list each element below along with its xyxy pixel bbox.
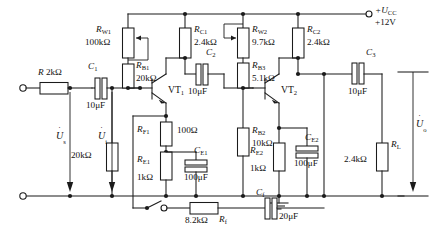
resistor-RE2-body	[274, 143, 286, 171]
supply-label: +UCC	[375, 6, 397, 16]
label-ui: ˙Ui	[98, 130, 107, 143]
phasor-us-arrowhead	[67, 182, 73, 192]
label-uo: ˙Uo	[416, 118, 427, 131]
label-RE2-val: 1kΩ	[250, 164, 266, 174]
schematic-svg	[0, 0, 438, 240]
label-RB1-ref: RB1	[136, 61, 149, 71]
node-gnd-fb	[322, 194, 326, 198]
resistor-RB3-body	[238, 63, 250, 88]
capacitor-Cf-plate-left	[265, 198, 270, 219]
resistor-RL-body	[377, 143, 389, 171]
capacitor-C2-plate-left	[196, 64, 201, 85]
label-RB3-val: 5.1kΩ	[252, 74, 275, 84]
phasor-uo-arrowhead	[410, 182, 416, 192]
capacitor-C3-plate-left	[352, 63, 357, 84]
label-Rf-ref: Rf	[219, 215, 227, 225]
label-C1-val: 10μF	[86, 101, 105, 111]
label-CE1-ref: CE1	[194, 146, 207, 156]
input-terminal-bottom[interactable]	[20, 193, 26, 199]
node-rc1-top	[183, 12, 187, 16]
label-RL-ref: RL	[391, 140, 401, 150]
label-RW2-val: 9.7kΩ	[252, 38, 275, 48]
label-RW1-val: 100kΩ	[85, 38, 110, 48]
resistor-R-body	[40, 83, 68, 95]
label-RB3-ref: RB3	[252, 61, 265, 71]
node-output-tap	[296, 72, 300, 76]
label-CE2-val: 100μF	[294, 159, 318, 169]
label-RF1-ref: RF1	[137, 125, 150, 135]
node-gnd-rl	[380, 194, 384, 198]
resistor-RE1-body	[161, 152, 173, 180]
label-R: R 2kΩ	[38, 68, 62, 78]
node-ui-tap	[68, 86, 72, 90]
label-20k-val: 20kΩ	[71, 151, 92, 161]
label-Cf-val: 20μF	[279, 212, 298, 222]
label-C2-val: 10μF	[188, 87, 207, 97]
resistor-RB2-body	[238, 128, 250, 156]
node-gnd-20k	[110, 194, 114, 198]
resistor-RW1-body	[123, 28, 135, 58]
capacitor-C3-plate-right	[359, 63, 364, 84]
label-VT2: VT2	[281, 85, 297, 95]
label-RW1-ref: RW1	[96, 25, 111, 35]
label-Cf-ref: Cf	[256, 188, 264, 198]
capacitor-C2-plate-right	[203, 64, 208, 85]
supply-terminal[interactable]	[366, 11, 372, 17]
label-VT1: VT1	[168, 85, 184, 95]
resistor-RW2-body	[238, 28, 250, 58]
collector-load-stage1	[166, 12, 196, 74]
input-network	[20, 78, 142, 196]
label-CE1-val: 100μF	[184, 173, 208, 183]
phasor-ui-arrowhead	[109, 182, 115, 192]
label-Rf-val: 8.2kΩ	[185, 216, 208, 226]
resistor-Rf-body	[190, 203, 218, 215]
label-RL-val: 2.4kΩ	[344, 155, 367, 165]
capacitor-CE1-plate-top	[185, 160, 207, 165]
label-RC2-val: 2.4kΩ	[307, 38, 330, 48]
label-CE2-ref: CE2	[305, 133, 318, 143]
input-terminal-top[interactable]	[20, 85, 26, 91]
node-gnd-ce2	[305, 194, 309, 198]
label-RE1-ref: RE1	[137, 155, 150, 165]
capacitor-C1-plate-left	[95, 78, 100, 99]
label-RE2-ref: RE2	[250, 146, 263, 156]
node-rw2-top	[241, 12, 245, 16]
node-gnd-ui	[68, 194, 72, 198]
label-C2-ref: C2	[206, 48, 215, 58]
resistor-RB1-body	[123, 64, 135, 88]
label-us: ˙Us	[56, 130, 66, 143]
switch-contact[interactable]	[161, 205, 167, 211]
capacitor-Cf-plate-right	[272, 198, 277, 219]
bias-network-stage2	[224, 12, 253, 128]
label-C1-ref: C1	[88, 62, 97, 72]
node-rb1-bottom	[126, 86, 130, 90]
label-RC2-ref: RC2	[307, 25, 320, 35]
node-gnd-ce1	[194, 194, 198, 198]
label-RB2-ref: RB2	[252, 126, 265, 136]
capacitor-C1-plate-right	[102, 78, 107, 99]
supply-rail	[128, 14, 366, 28]
resistor-RC2-body	[293, 28, 305, 58]
switch-blade[interactable]	[147, 201, 161, 208]
circuit-diagram: +UCC +12V R 2kΩ C1 10μF 20kΩ RW1 100kΩ R…	[0, 0, 438, 240]
label-C3-val: 10μF	[348, 87, 367, 97]
node-gnd-rb2	[241, 194, 245, 198]
label-RE1-val: 1kΩ	[137, 173, 153, 183]
resistor-RF1-body	[161, 122, 173, 146]
node-rc2-top	[296, 12, 300, 16]
resistor-RC1-body	[180, 28, 192, 58]
node-feedback-tap	[322, 72, 326, 76]
supply-voltage-label: +12V	[375, 18, 396, 28]
label-RB1-val: 20kΩ	[136, 74, 157, 84]
label-RF1-val: 100Ω	[177, 126, 198, 136]
node-vt2-collector	[296, 56, 300, 60]
label-RW2-ref: RW2	[252, 25, 267, 35]
label-C3-ref: C3	[366, 48, 375, 58]
node-gnd-re1	[164, 194, 168, 198]
node-vt1-collector	[183, 56, 187, 60]
capacitor-CE2-plate-top	[296, 146, 318, 151]
label-RC1-ref: RC1	[194, 25, 207, 35]
output-network	[352, 63, 388, 196]
